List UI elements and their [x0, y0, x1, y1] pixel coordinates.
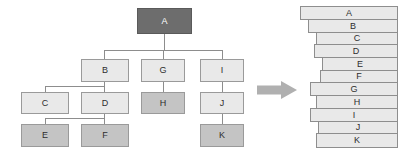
stack-bar-j-label: J — [356, 123, 361, 132]
stack-bar-d[interactable]: D — [314, 44, 398, 58]
edge-to-b — [104, 50, 105, 59]
edge-row3-bus — [45, 118, 105, 119]
tree-node-k-label: K — [219, 131, 225, 140]
tree-node-e-label: E — [42, 131, 48, 140]
tree-node-b[interactable]: B — [81, 59, 129, 82]
diagram-canvas: A B G I C D H J E F K A B C D E F G H I … — [0, 0, 419, 158]
stack-bar-g-label: G — [350, 85, 357, 94]
stack-bar-c-label: C — [354, 34, 361, 43]
stack-bar-a[interactable]: A — [300, 6, 398, 20]
stack-bar-h[interactable]: H — [316, 95, 398, 109]
stack-bar-g[interactable]: G — [310, 82, 398, 96]
tree-node-f-label: F — [102, 131, 108, 140]
tree-node-g-label: G — [159, 66, 166, 75]
tree-node-h-label: H — [160, 99, 167, 108]
tree-node-a-label: A — [161, 17, 167, 26]
tree-node-c-label: C — [42, 99, 49, 108]
tree-node-d[interactable]: D — [81, 92, 129, 114]
edge-row2-bus — [45, 86, 105, 87]
stack-bar-a-label: A — [346, 9, 352, 18]
stack-bar-f-label: F — [356, 72, 362, 81]
stack-bar-b-label: B — [350, 22, 356, 31]
tree-node-i-label: I — [221, 66, 224, 75]
tree-node-e[interactable]: E — [21, 124, 69, 147]
stack-bar-i[interactable]: I — [310, 108, 398, 122]
tree-node-j[interactable]: J — [200, 92, 244, 114]
tree-node-j-label: J — [220, 99, 225, 108]
stack-bar-k-label: K — [354, 136, 360, 145]
stack-bar-k[interactable]: K — [316, 133, 398, 148]
right-arrow-icon — [257, 81, 297, 99]
tree-node-b-label: B — [102, 66, 108, 75]
edge-a-down — [164, 34, 165, 51]
stack-bar-e[interactable]: E — [322, 57, 398, 71]
edge-g-h — [163, 82, 164, 92]
edge-j-k — [222, 114, 223, 124]
stack-bar-e-label: E — [357, 60, 363, 69]
stack-bar-d-label: D — [353, 47, 360, 56]
edge-to-i — [222, 50, 223, 59]
tree-node-f[interactable]: F — [81, 124, 129, 147]
tree-node-h[interactable]: H — [141, 92, 185, 114]
tree-node-g[interactable]: G — [141, 59, 185, 82]
stack-bar-h-label: H — [354, 98, 361, 107]
edge-to-g — [163, 50, 164, 59]
stack-bar-i-label: I — [353, 111, 356, 120]
edge-i-j — [222, 82, 223, 92]
tree-node-c[interactable]: C — [21, 92, 69, 114]
tree-node-i[interactable]: I — [200, 59, 244, 82]
tree-node-k[interactable]: K — [200, 124, 244, 147]
stack-bar-b[interactable]: B — [308, 19, 398, 33]
tree-node-d-label: D — [102, 99, 109, 108]
tree-node-a[interactable]: A — [137, 8, 192, 34]
